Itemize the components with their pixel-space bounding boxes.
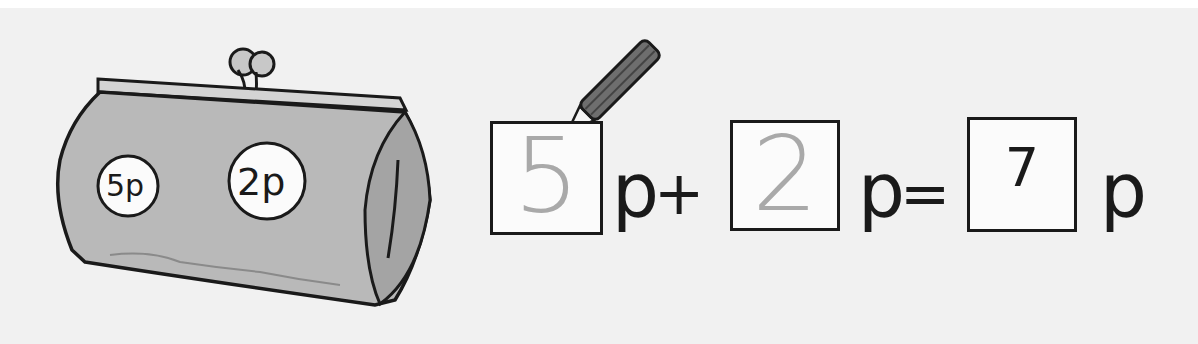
- coin-5p-label: 5p: [106, 171, 144, 201]
- worksheet-page: 5p 2p 5 p + 2 p = 7 p: [0, 8, 1198, 344]
- equals-sign: =: [900, 163, 950, 223]
- addend-box-2[interactable]: 2: [730, 120, 840, 231]
- unit-p-1: p: [612, 153, 659, 227]
- addend-1-value: 5: [513, 124, 579, 228]
- addend-2-value: 2: [752, 122, 818, 226]
- unit-p-3: p: [1100, 153, 1147, 227]
- unit-p-2: p: [858, 153, 905, 227]
- addend-box-1[interactable]: 5: [490, 121, 603, 235]
- coin-2p-label: 2p: [237, 163, 285, 201]
- purse-illustration: [0, 8, 460, 344]
- plus-sign: +: [654, 163, 704, 223]
- answer-value: 7: [1005, 141, 1039, 195]
- answer-box[interactable]: 7: [967, 117, 1077, 232]
